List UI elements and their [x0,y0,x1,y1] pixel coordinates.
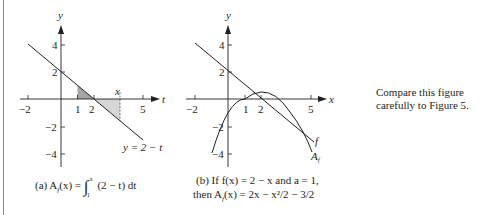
x-tick-1: 1 [243,103,249,115]
x-tick-neg2: −2 [19,103,31,115]
x-axis-arrow-icon [318,96,327,102]
y-tick-4: 4 [52,39,58,51]
t-axis-arrow-icon [151,96,160,102]
y-tick-2: 2 [219,66,225,78]
x-marker-label: x [114,85,120,97]
y-tick-neg4: −4 [45,148,57,160]
y-tick-4: 4 [219,39,225,51]
curve-f-label: f [315,135,320,147]
t-axis-label: t [162,93,166,105]
caption-a: (a) Af(x) = ∫x1(2 − t) dt [35,177,136,194]
side-note: Compare this figure carefully to Figure … [376,86,491,112]
y-axis-arrow-icon [58,25,64,34]
caption-b-line2: then Af(x) = 2x − x²/2 − 3/2 [193,187,314,203]
caption-b-line1: (b) If f(x) = 2 − x and a = 1, [196,173,319,187]
panel-b: y x −2 1 2 5 4 2 −2 −4 f Af [186,9,334,167]
curve-A-f [212,92,312,153]
y-axis-label: y [225,9,231,21]
x-tick-2: 2 [89,103,95,115]
x-tick-2: 2 [258,103,264,115]
curve-A-label: Af [310,150,321,164]
y-tick-2: 2 [52,66,58,78]
x-axis-label: x [328,93,334,105]
x-tick-5: 5 [140,103,146,115]
panel-a: y t −2 1 2 5 x 4 2 −2 −4 y = 2 − t [19,9,166,167]
y-axis-label: y [57,9,63,21]
y-tick-neg2: −2 [212,121,224,133]
y-tick-neg4: −4 [212,148,224,160]
x-tick-neg2: −2 [186,103,198,115]
y-axis-arrow-icon [225,25,231,34]
x-tick-1: 1 [75,103,81,115]
x-tick-5: 5 [308,103,314,115]
y-tick-neg2: −2 [45,121,57,133]
line-label: y = 2 − t [122,141,163,153]
